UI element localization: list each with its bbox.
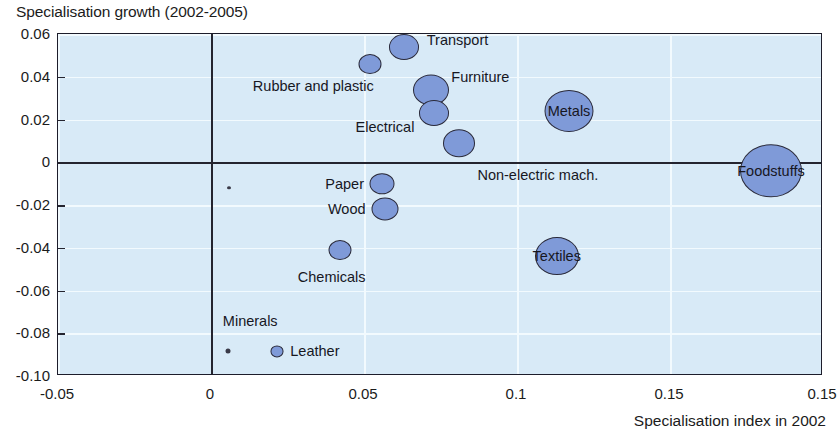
key-minerals-label: Minerals: [223, 313, 278, 329]
x-axis-tick-label: 0.1: [506, 385, 527, 402]
key-leather-bubble: [270, 346, 283, 357]
key-minerals-dot: [225, 349, 230, 354]
key-leather-label: Leather: [290, 343, 339, 359]
x-axis-tick-label: 0.05: [348, 385, 377, 402]
y-axis-tick-label: -0.04: [16, 238, 50, 255]
y-axis-tick: [58, 77, 65, 79]
y-axis-tick: [58, 205, 65, 207]
bubble-label-rubber-and-plastic: Rubber and plastic: [253, 78, 374, 94]
y-axis-tick-label: -0.08: [16, 324, 50, 341]
bubble-minerals[interactable]: [227, 186, 231, 189]
x-axis-tick-label: 0: [206, 385, 214, 402]
y-axis-tick-label: 0.02: [21, 110, 50, 127]
bubble-label-paper: Paper: [325, 176, 364, 192]
bubble-wood[interactable]: [372, 198, 399, 221]
horizontal-gridline: [58, 205, 821, 207]
vertical-gridline: [517, 34, 519, 374]
y-axis-tick: [58, 120, 65, 122]
bubble-chemicals[interactable]: [328, 240, 351, 260]
bubble-textiles[interactable]: [535, 237, 579, 275]
bubble-metals[interactable]: [545, 90, 594, 132]
x-axis-tick-label: 0.15: [807, 385, 836, 402]
x-axis-tick-label: 0.15: [654, 385, 683, 402]
bubble-foodstuffs[interactable]: [740, 144, 802, 197]
y-axis-tick-label: -0.02: [16, 196, 50, 213]
vertical-gridline: [670, 34, 672, 374]
plot-area: TransportRubber and plasticFurnitureElec…: [57, 33, 822, 375]
horizontal-gridline: [58, 333, 821, 335]
bubble-label-wood: Wood: [328, 201, 366, 217]
y-axis-tick-label: 0.06: [21, 25, 50, 42]
x-axis-title: Specialisation index in 2002: [634, 412, 826, 430]
chart-title: Specialisation growth (2002-2005): [16, 3, 248, 21]
y-axis-tick: [58, 291, 65, 293]
bubble-label-electrical: Electrical: [356, 119, 415, 135]
bubble-label-transport: Transport: [427, 33, 489, 48]
bubble-label-non-electric-mach-: Non-electric mach.: [477, 167, 598, 183]
bubble-non-electric-mach[interactable]: [443, 129, 475, 157]
bubble-rubber-and-plastic[interactable]: [359, 54, 382, 74]
y-zero-axis-line: [211, 34, 213, 374]
y-axis-tick-label: -0.06: [16, 281, 50, 298]
y-axis-tick: [58, 248, 65, 250]
horizontal-gridline: [58, 248, 821, 250]
y-axis-tick-label: -0.10: [16, 367, 50, 384]
bubble-transport[interactable]: [389, 34, 419, 60]
vertical-gridline: [58, 34, 60, 374]
bubble-paper[interactable]: [370, 173, 395, 195]
y-axis-tick-label: 0: [42, 153, 50, 170]
bubble-label-chemicals: Chemicals: [298, 269, 366, 285]
chart-canvas: Specialisation growth (2002-2005) Transp…: [0, 0, 840, 436]
y-axis-tick-label: 0.04: [21, 67, 50, 84]
x-zero-axis-line: [58, 162, 821, 164]
horizontal-gridline: [58, 291, 821, 293]
bubble-electrical[interactable]: [419, 100, 449, 126]
y-axis-tick: [58, 333, 65, 335]
x-axis-tick-label: -0.05: [40, 385, 74, 402]
bubble-label-furniture: Furniture: [451, 69, 509, 85]
